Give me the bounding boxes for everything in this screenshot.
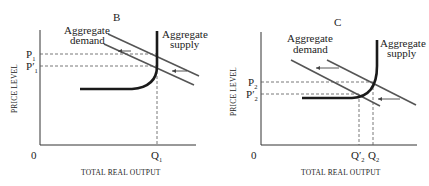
panel-c: C PRICE LEVEL 0 TOTAL REAL OUTPUT P2 P′2…: [229, 16, 426, 177]
panel-c-price-label-p2prime: P′2: [246, 88, 258, 102]
panel-c-left-shift-arrow-lower: [378, 97, 400, 101]
panel-c-x-axis-label: TOTAL REAL OUTPUT: [301, 168, 381, 177]
panel-b-demand-label-line2: demand: [70, 34, 105, 46]
panel-b-y-axis-label: PRICE LEVEL: [10, 64, 19, 113]
panel-c-quantity-label-q2: Q2: [368, 149, 379, 163]
panel-c-y-axis-label: PRICE LEVEL: [229, 67, 238, 116]
panel-b-aggregate-demand-shifted: [104, 44, 194, 85]
panel-c-left-shift-arrow-upper: [316, 66, 339, 70]
panel-b-quantity-label-q1: Q1: [151, 149, 162, 163]
panel-b-x-axis-label: TOTAL REAL OUTPUT: [81, 168, 161, 177]
panel-b-left-shift-arrow-upper: [118, 49, 131, 53]
panel-b-supply-label-line2: supply: [170, 38, 200, 50]
panel-c-quantity-label-q2prime: Q′2: [351, 149, 365, 163]
panel-b-title: B: [113, 11, 120, 23]
panel-c-demand-label-line2: demand: [293, 43, 328, 55]
aggregate-demand-supply-diagram: B PRICE LEVEL 0 TOTAL REAL OUTPUT P1 P′1…: [0, 0, 429, 186]
panel-c-origin-label: 0: [251, 149, 257, 161]
panel-b: B PRICE LEVEL 0 TOTAL REAL OUTPUT P1 P′1…: [10, 11, 208, 177]
panel-b-price-label-p1prime: P′1: [26, 60, 38, 74]
panel-c-supply-label-line2: supply: [387, 47, 417, 59]
panel-c-title: C: [334, 16, 341, 28]
panel-b-origin-label: 0: [31, 149, 37, 161]
